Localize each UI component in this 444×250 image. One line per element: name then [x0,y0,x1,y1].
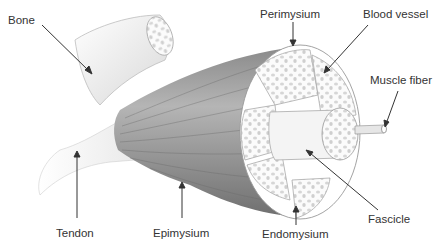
label-perimysium: Perimysium [260,9,320,21]
label-endomysium: Endomysium [262,229,328,241]
label-tendon: Tendon [56,228,94,240]
label-fascicle: Fascicle [368,214,410,226]
label-muscle-fiber: Muscle fiber [370,75,432,87]
label-epimysium: Epimysium [153,228,209,240]
cross-section [240,45,387,219]
label-bone: Bone [8,15,35,27]
label-blood-vessel: Blood vessel [363,9,428,21]
